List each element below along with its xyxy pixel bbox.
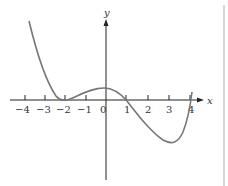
tick-label: −4 [15, 104, 30, 115]
tick-label: −3 [36, 104, 51, 115]
function-graph: x y −4 −3 −2 −1 0 1 2 3 4 [0, 0, 228, 186]
tick-label: 0 [100, 104, 106, 115]
x-tick-labels: −4 −3 −2 −1 0 1 2 3 4 [15, 104, 194, 115]
tick-label: 2 [145, 104, 151, 115]
y-axis-label: y [103, 7, 110, 18]
x-axis-label: x [207, 95, 213, 106]
y-axis-arrow-icon [104, 19, 109, 26]
tick-label: −1 [77, 104, 92, 115]
tick-label: 3 [166, 104, 172, 115]
tick-label: −2 [56, 104, 71, 115]
function-curve [29, 21, 192, 143]
x-axis-arrow-icon [197, 98, 204, 103]
x-ticks [25, 95, 190, 100]
tick-label: 1 [124, 104, 130, 115]
